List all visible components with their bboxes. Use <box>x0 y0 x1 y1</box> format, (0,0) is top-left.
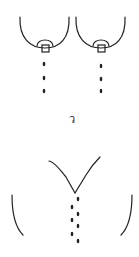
drop-icon <box>100 64 103 69</box>
drop-icon <box>43 89 46 94</box>
illustration <box>0 0 139 257</box>
drop-icon <box>77 212 80 217</box>
torso-v-line <box>49 157 100 193</box>
drop-icon <box>77 224 80 229</box>
drop-icon <box>100 77 103 82</box>
drop-icon <box>100 89 103 94</box>
left-side-arc <box>12 195 23 235</box>
drop-icon <box>77 197 80 202</box>
right-side-arc <box>121 195 132 235</box>
drop-icon <box>71 205 74 210</box>
drop-icon <box>77 239 80 244</box>
drop-icon <box>71 232 74 237</box>
left-breast-outline <box>20 17 69 48</box>
milk-drops <box>43 62 103 244</box>
drop-icon <box>71 218 74 223</box>
right-breast-outline <box>76 17 125 48</box>
figure-label: ว <box>64 114 80 126</box>
drop-icon <box>43 76 46 81</box>
drop-icon <box>43 62 46 67</box>
